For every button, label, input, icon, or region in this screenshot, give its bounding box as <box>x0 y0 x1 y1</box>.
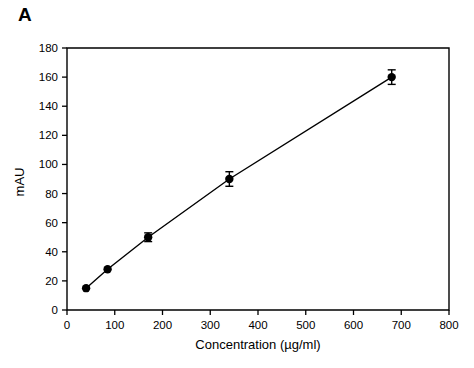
line-chart: 020406080100120140160180 010020030040050… <box>0 0 474 368</box>
plot-frame <box>67 48 449 310</box>
x-tick-label: 500 <box>296 319 315 331</box>
y-axis-tick-labels: 020406080100120140160180 <box>39 42 58 316</box>
y-tick-label: 160 <box>39 71 58 83</box>
y-tick-label: 140 <box>39 100 58 112</box>
x-tick-label: 0 <box>64 319 70 331</box>
x-tick-label: 800 <box>439 319 458 331</box>
y-tick-label: 180 <box>39 42 58 54</box>
y-tick-label: 0 <box>52 304 58 316</box>
y-tick-label: 100 <box>39 158 58 170</box>
data-point-marker <box>144 233 152 241</box>
data-point-marker <box>388 73 396 81</box>
data-markers <box>82 73 396 292</box>
x-tick-label: 700 <box>392 319 411 331</box>
y-tick-label: 80 <box>45 188 58 200</box>
data-point-marker <box>225 175 233 183</box>
x-tick-label: 300 <box>201 319 220 331</box>
x-tick-label: 100 <box>105 319 124 331</box>
y-axis-ticks <box>62 48 67 310</box>
x-axis-title: Concentration (µg/ml) <box>195 337 320 352</box>
y-tick-label: 120 <box>39 129 58 141</box>
x-tick-label: 600 <box>344 319 363 331</box>
data-point-marker <box>82 284 90 292</box>
error-bars <box>144 70 396 242</box>
y-tick-label: 40 <box>45 246 58 258</box>
figure-panel: A 020406080100120140160180 0100200300400… <box>0 0 474 368</box>
x-tick-label: 400 <box>248 319 267 331</box>
x-axis-ticks <box>67 310 449 315</box>
y-tick-label: 20 <box>45 275 58 287</box>
series-line <box>86 77 392 288</box>
x-tick-label: 200 <box>153 319 172 331</box>
data-point-marker <box>103 265 111 273</box>
y-tick-label: 60 <box>45 217 58 229</box>
data-series <box>86 77 392 288</box>
x-axis-tick-labels: 0100200300400500600700800 <box>64 319 459 331</box>
y-axis-title: mAU <box>12 168 27 197</box>
